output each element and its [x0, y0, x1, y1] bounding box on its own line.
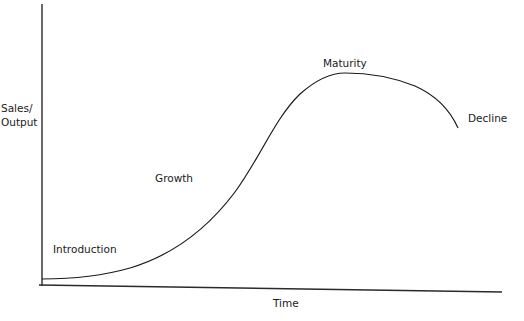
y-axis-label: Sales/ Output [1, 101, 37, 129]
stage-label-maturity: Maturity [323, 57, 367, 70]
product-life-cycle-diagram [0, 0, 524, 321]
stage-label-growth: Growth [155, 172, 193, 185]
stage-label-decline: Decline [468, 112, 507, 125]
stage-label-introduction: Introduction [53, 243, 117, 256]
x-axis-label: Time [273, 297, 299, 310]
y-axis-label-line1: Sales/ [1, 101, 37, 115]
y-axis-label-line2: Output [1, 115, 37, 129]
x-axis [39, 285, 502, 292]
